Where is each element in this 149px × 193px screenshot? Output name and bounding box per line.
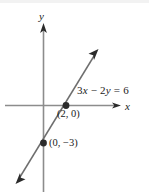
- x-axis-label: x: [125, 101, 130, 112]
- equation-equals-sign: =: [114, 84, 120, 96]
- equation-var-y: y: [106, 84, 111, 96]
- equation-var-x: x: [83, 84, 88, 96]
- y-axis: [40, 23, 47, 192]
- y-axis-label: y: [39, 11, 44, 22]
- y-intercept-point-label: (0, −3): [49, 138, 78, 149]
- graph-figure: y x 3x − 2y = 6 (2, 0) (0, −3): [0, 0, 149, 193]
- equation-label: 3x − 2y = 6: [77, 85, 129, 96]
- equation-minus-sign: −: [91, 84, 97, 96]
- x-intercept-point-label: (2, 0): [57, 109, 80, 120]
- equation-constant: 6: [123, 84, 129, 96]
- point-y-intercept: [40, 140, 47, 147]
- coordinate-plane-svg: [0, 0, 149, 193]
